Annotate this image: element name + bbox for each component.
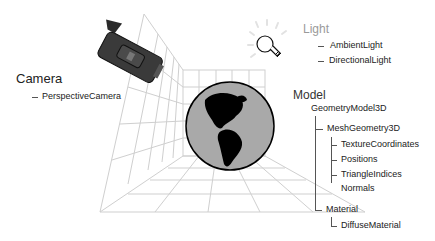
geometry-model-label: GeometryModel3D	[311, 104, 387, 113]
directional-light-label: DirectionalLight	[329, 56, 391, 65]
material-label: Material	[326, 205, 358, 214]
tree-branch	[315, 129, 323, 130]
diffuse-material-label: DiffuseMaterial	[341, 221, 401, 230]
positions-label: Positions	[341, 155, 378, 164]
tree-dash	[318, 46, 324, 47]
tree-dash	[32, 97, 38, 98]
tree-line	[331, 217, 332, 226]
camera-heading: Camera	[16, 72, 62, 85]
light-bulb-icon	[0, 0, 435, 241]
scene-diagram: Camera PerspectiveCamera Light AmbientLi…	[0, 0, 435, 241]
tree-branch	[331, 175, 337, 176]
triangle-indices-label: TriangleIndices	[341, 170, 402, 179]
model-heading: Model	[293, 89, 326, 101]
tree-line	[315, 116, 316, 210]
texture-coordinates-label: TextureCoordinates	[341, 140, 419, 149]
mesh-geometry-label: MeshGeometry3D	[327, 124, 400, 133]
tree-dash	[318, 61, 324, 62]
perspective-camera-label: PerspectiveCamera	[42, 92, 121, 101]
tree-branch	[331, 226, 337, 227]
tree-branch	[331, 160, 337, 161]
tree-branch	[315, 210, 322, 211]
light-heading: Light	[303, 23, 329, 35]
normals-label: Normals	[341, 184, 375, 193]
ambient-light-label: AmbientLight	[330, 41, 383, 50]
tree-branch	[331, 145, 337, 146]
